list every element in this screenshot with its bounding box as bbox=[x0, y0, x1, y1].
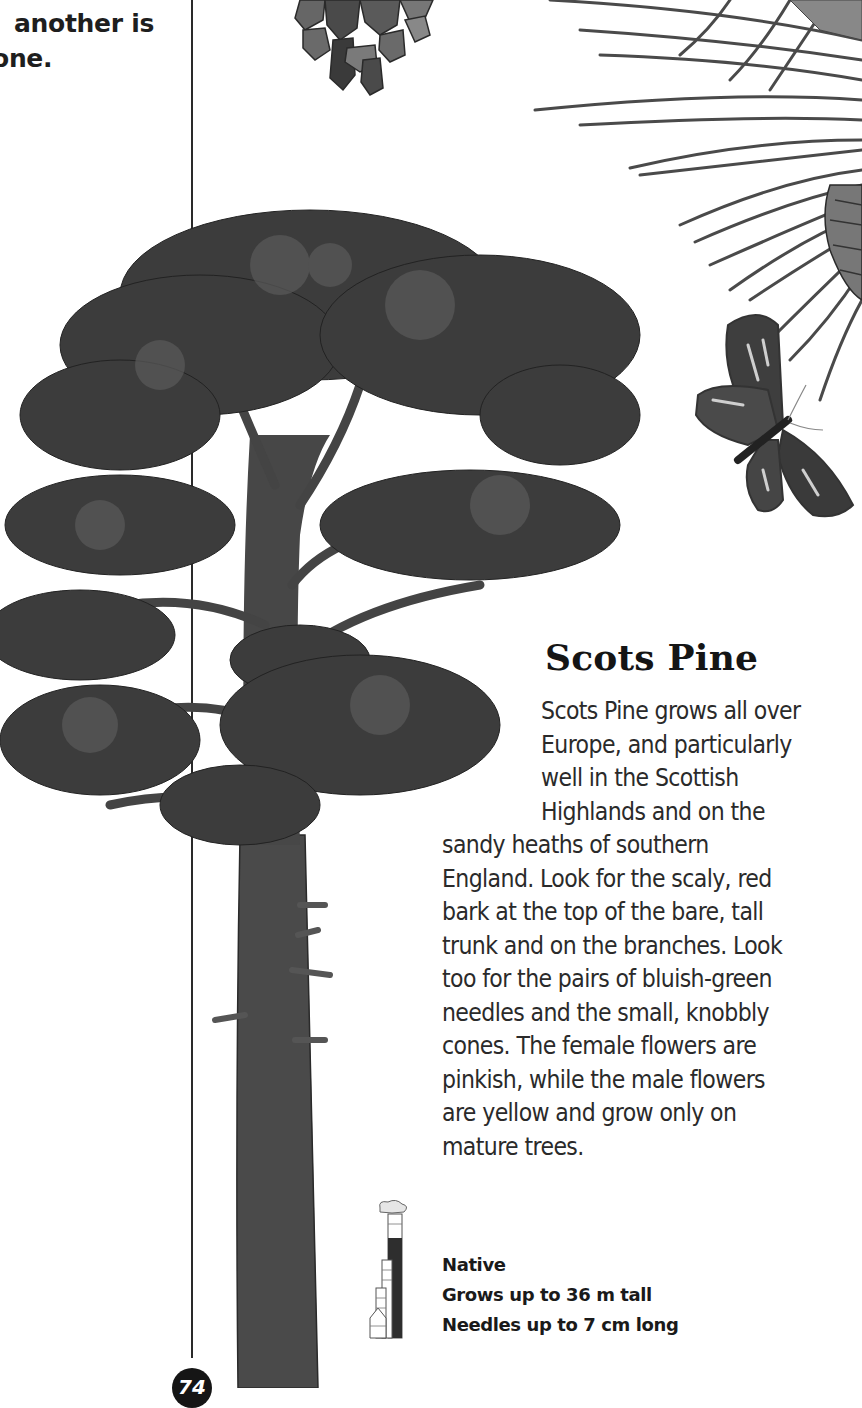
description-line: pinkish, while the male flowers bbox=[442, 1063, 782, 1097]
native-status: Native bbox=[442, 1250, 678, 1280]
needle-length: Needles up to 7 cm long bbox=[442, 1310, 678, 1340]
page-title: Scots Pine bbox=[545, 636, 758, 678]
pine-cone-illustration bbox=[285, 0, 435, 100]
moth-illustration bbox=[688, 305, 860, 520]
description-line: Highlands and on the bbox=[541, 795, 801, 829]
caption-line: one. bbox=[0, 41, 200, 76]
description-full: sandy heaths of southern England. Look f… bbox=[442, 828, 782, 1163]
description-line: sandy heaths of southern bbox=[442, 828, 782, 862]
page-number-badge: 74 bbox=[172, 1368, 212, 1408]
description-line: too for the pairs of bluish-green bbox=[442, 962, 782, 996]
description-wrapped: Scots Pine grows all over Europe, and pa… bbox=[541, 694, 801, 828]
description-line: are yellow and grow only on bbox=[442, 1096, 782, 1130]
description-line: Scots Pine grows all over bbox=[541, 694, 801, 728]
tree-facts: Native Grows up to 36 m tall Needles up … bbox=[442, 1250, 678, 1340]
description-line: well in the Scottish bbox=[541, 761, 801, 795]
description-line: trunk and on the branches. Look bbox=[442, 929, 782, 963]
description-line: England. Look for the scaly, red bbox=[442, 862, 782, 896]
max-height: Grows up to 36 m tall bbox=[442, 1280, 678, 1310]
description-line: Europe, and particularly bbox=[541, 728, 801, 762]
carried-caption: another is one. bbox=[0, 6, 200, 76]
description-line: bark at the top of the bare, tall bbox=[442, 895, 782, 929]
description-line: cones. The female flowers are bbox=[442, 1029, 782, 1063]
description-line: needles and the small, knobbly bbox=[442, 996, 782, 1030]
description-line: mature trees. bbox=[442, 1130, 782, 1164]
caption-line: another is bbox=[14, 6, 200, 41]
building-height-scale-icon bbox=[368, 1200, 412, 1340]
